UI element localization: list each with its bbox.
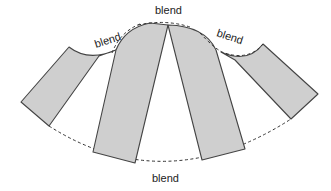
upper-right-blend-label: blend <box>215 26 244 46</box>
bottom-blend-curve <box>49 119 291 161</box>
bottom-blend-label: blend <box>152 172 179 184</box>
center-right-piece <box>168 25 245 160</box>
pattern-diagram: blend blend blend blend <box>0 0 331 191</box>
top-blend-label: blend <box>155 4 182 16</box>
right-outer-piece <box>221 44 318 119</box>
